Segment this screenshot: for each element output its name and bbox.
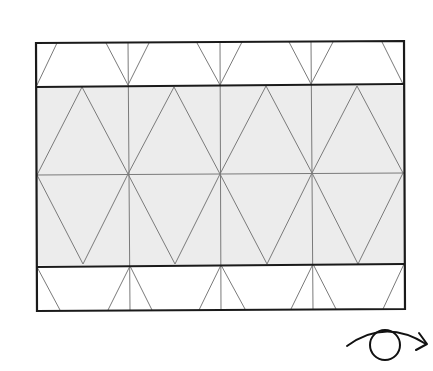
lattice-diagram: [0, 0, 433, 371]
eye-with-rotation-arrow-icon: [347, 330, 427, 360]
